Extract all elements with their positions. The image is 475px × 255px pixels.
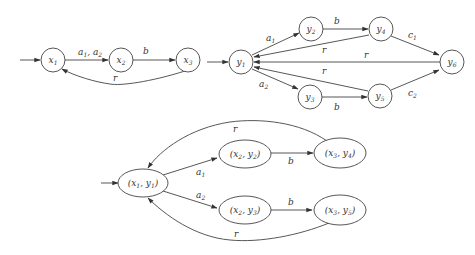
state-x1y1-label: (x1, y1) <box>128 178 159 189</box>
edge-label-c1: c1 <box>408 30 417 41</box>
edge-label-a1: a1 <box>266 33 275 44</box>
edge-label-a2-product: a2 <box>196 190 205 201</box>
edge-label-b-lower: b <box>334 102 340 112</box>
edge-label-a2: a2 <box>259 79 268 90</box>
edge-label-r-upper-product: r <box>233 124 238 134</box>
edge-y5-y6 <box>391 70 439 90</box>
automaton-y: y1 y2 y3 y4 y5 y6 a1 a2 b b c1 c2 r r r <box>207 16 464 112</box>
edge-label-a1-product: a1 <box>196 167 205 178</box>
edge-label-a1-a2: a1, a2 <box>78 47 102 58</box>
edge-label-r: r <box>113 73 118 83</box>
automata-diagram: x1 x2 x3 a1, a2 b r y1 y2 y3 y4 y5 y6 a1… <box>0 0 475 255</box>
edge-label-r-y5: r <box>322 66 327 76</box>
edge-label-b: b <box>143 46 149 56</box>
state-x3y5-label: (x3, y5) <box>325 205 356 216</box>
edge-label-r-lower-product: r <box>234 229 239 239</box>
edge-label-c2: c2 <box>408 88 417 99</box>
state-x2y3-label: (x2, y3) <box>230 205 261 216</box>
product-automaton: (x1, y1) (x2, y2) (x3, y4) (x2, y3) (x3,… <box>101 121 366 241</box>
edge-x1y1-x2y2 <box>163 158 217 175</box>
edge-label-b-lower-product: b <box>288 197 294 207</box>
state-x2y2-label: (x2, y2) <box>230 149 261 160</box>
edge-label-b-upper-product: b <box>288 156 294 166</box>
state-x3y4-label: (x3, y4) <box>325 148 356 159</box>
edge-label-r-y6: r <box>364 50 369 60</box>
edge-x1y1-x2y3 <box>163 191 217 208</box>
edge-label-b-upper: b <box>334 16 340 26</box>
edge-label-r-y4: r <box>322 45 327 55</box>
automaton-x: x1 x2 x3 a1, a2 b r <box>20 46 200 84</box>
edge-y1-y2 <box>252 33 299 55</box>
